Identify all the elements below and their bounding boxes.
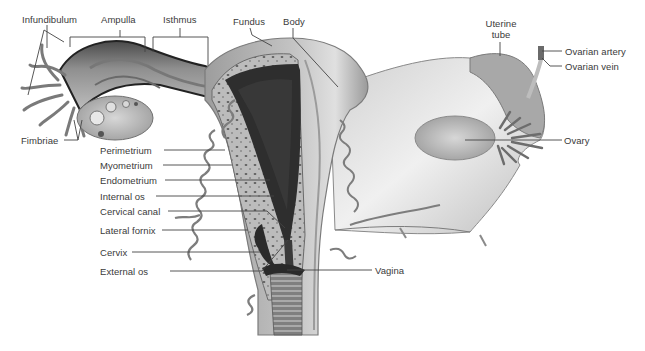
label-cervical-canal: Cervical canal — [100, 206, 160, 217]
label-cervix: Cervix — [100, 247, 127, 258]
label-uterine-tube: Uterine tube — [483, 18, 519, 40]
label-lateral-fornix: Lateral fornix — [100, 225, 156, 236]
anatomy-illustration — [0, 0, 645, 351]
label-perimetrium: Perimetrium — [100, 145, 152, 156]
label-infundibulum: Infundibulum — [22, 14, 77, 25]
label-myometrium: Myometrium — [100, 160, 153, 171]
label-internal-os: Internal os — [100, 191, 145, 202]
label-uterine-tube-line2: tube — [483, 29, 519, 40]
label-fundus: Fundus — [233, 16, 265, 27]
label-body: Body — [283, 16, 305, 27]
label-uterine-tube-line1: Uterine — [483, 18, 519, 29]
label-ovary: Ovary — [564, 135, 590, 146]
uterus-anatomy-diagram: Infundibulum Ampulla Isthmus Fundus Body… — [0, 0, 645, 351]
label-ampulla: Ampulla — [101, 14, 136, 25]
label-isthmus: Isthmus — [163, 14, 197, 25]
label-fimbriae: Fimbriae — [21, 135, 58, 146]
label-endometrium: Endometrium — [100, 175, 157, 186]
label-vagina: Vagina — [375, 265, 404, 276]
label-ovarian-artery: Ovarian artery — [565, 46, 626, 57]
label-external-os: External os — [100, 266, 148, 277]
label-ovarian-vein: Ovarian vein — [565, 61, 619, 72]
